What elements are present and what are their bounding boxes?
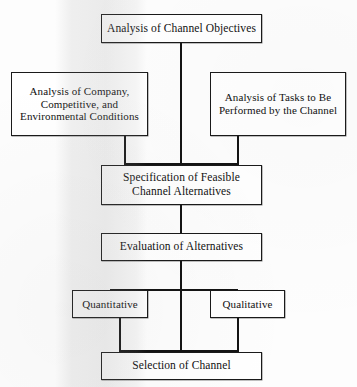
flowchart-canvas: Analysis of Channel Objectives Analysis …: [0, 0, 357, 387]
edge-quantitative-to-selection: [119, 318, 121, 352]
node-label: Quantitative: [79, 298, 141, 311]
node-analysis-of-tasks-to-be-performed-by-the-channel[interactable]: Analysis of Tasks to Be Performed by the…: [210, 72, 346, 136]
node-label: Specification of Feasible Channel Altern…: [102, 171, 261, 198]
edge-objectives-to-specification: [180, 43, 182, 165]
node-label: Selection of Channel: [129, 359, 233, 373]
node-label: Analysis of Channel Objectives: [104, 22, 259, 36]
edge-qualitative-to-selection: [237, 318, 239, 352]
node-specification-of-feasible-channel-alternatives[interactable]: Specification of Feasible Channel Altern…: [101, 165, 262, 205]
node-label: Evaluation of Alternatives: [117, 240, 246, 254]
node-evaluation-of-alternatives[interactable]: Evaluation of Alternatives: [101, 233, 262, 261]
node-quantitative[interactable]: Quantitative: [72, 290, 148, 318]
node-analysis-of-channel-objectives[interactable]: Analysis of Channel Objectives: [101, 14, 262, 43]
edge-evaluation-to-selection: [180, 261, 182, 352]
edge-specification-to-evaluation: [180, 205, 182, 233]
node-selection-of-channel[interactable]: Selection of Channel: [101, 352, 262, 380]
edge-company-to-specification: [124, 136, 126, 165]
edge-tasks-to-specification: [237, 136, 239, 165]
node-analysis-of-company-competitive-environmental-conditions[interactable]: Analysis of Company, Competitive, and En…: [11, 72, 148, 136]
node-label: Analysis of Company, Competitive, and En…: [12, 85, 147, 124]
node-label: Analysis of Tasks to Be Performed by the…: [211, 91, 345, 117]
node-qualitative[interactable]: Qualitative: [210, 290, 285, 318]
node-label: Qualitative: [220, 298, 276, 311]
